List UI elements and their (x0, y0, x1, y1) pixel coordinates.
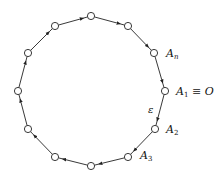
edge-arrow (98, 158, 124, 164)
edge-arrow (58, 18, 83, 25)
edge-arrow (62, 159, 87, 165)
edge-line (26, 56, 27, 60)
node-label-A1: A1 ≡ O (175, 85, 214, 99)
edge-line (94, 164, 98, 165)
node-B7 (14, 87, 21, 94)
edge-line (149, 48, 152, 51)
edge-label-epsilon: ε (148, 104, 153, 115)
edge-line (58, 158, 62, 159)
node-B10 (87, 12, 94, 19)
edge-arrow (19, 61, 26, 88)
edge-arrow (33, 135, 52, 155)
node-label-An: An (165, 47, 179, 61)
edge-arrow (20, 99, 27, 126)
node-A3 (124, 153, 131, 160)
edge-arrow (31, 31, 50, 50)
edge-line (30, 132, 33, 135)
node-B8 (24, 49, 31, 56)
node-A2 (151, 125, 158, 132)
edge-line (156, 121, 157, 125)
edge-arrow (94, 17, 120, 24)
node-An (150, 49, 157, 56)
edge-arrow (157, 94, 164, 121)
node-B5 (51, 153, 58, 160)
edge-arrow (130, 29, 148, 48)
node-B4 (87, 162, 94, 169)
node-A1 (161, 87, 168, 94)
node-B9 (51, 22, 58, 29)
node-B6 (24, 125, 31, 132)
edge-line (121, 24, 125, 25)
node-B11 (124, 22, 131, 29)
edge-line (84, 17, 88, 18)
node-label-A2: A2 (165, 123, 178, 137)
node-label-A3: A3 (139, 149, 152, 163)
nodes (14, 12, 168, 169)
edge-line (130, 151, 133, 154)
edges (19, 17, 164, 165)
edge-line (19, 94, 20, 98)
cycle-diagram: A1 ≡ OA2A3An ε (0, 0, 224, 179)
edge-line (50, 29, 53, 32)
edge-arrow (155, 56, 163, 83)
edge-line (163, 83, 164, 87)
